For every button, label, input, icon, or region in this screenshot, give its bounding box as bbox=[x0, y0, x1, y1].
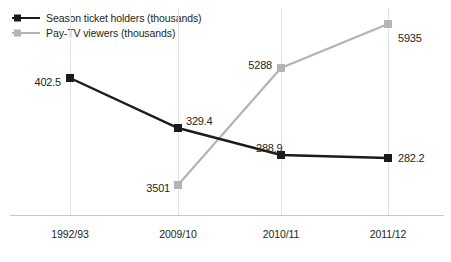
data-point-season-2009-10 bbox=[174, 124, 182, 132]
data-point-pay-tv-2010-11 bbox=[277, 64, 285, 72]
data-label-pay-tv-2011-12: 5935 bbox=[398, 32, 422, 44]
data-label-season-1992-93: 402.5 bbox=[34, 76, 61, 88]
legend-square-icon bbox=[14, 29, 21, 36]
data-point-season-2011-12 bbox=[384, 154, 392, 162]
x-tick-2011-12: 2011/12 bbox=[370, 228, 406, 240]
series-lines bbox=[0, 0, 451, 262]
x-axis-line bbox=[10, 215, 444, 216]
line-chart: Season ticket holders (thousands) Pay-TV… bbox=[0, 0, 451, 262]
data-label-pay-tv-2010-11: 5288 bbox=[248, 59, 272, 71]
data-label-pay-tv-2009-10: 3501 bbox=[146, 182, 170, 194]
line-pay-tv-viewers bbox=[178, 24, 388, 185]
data-label-season-2011-12: 282.2 bbox=[398, 152, 425, 164]
plot-area: 402.5 329.4 288.9 282.2 3501 5288 5935 1… bbox=[0, 0, 451, 262]
line-season-ticket-holders bbox=[70, 78, 388, 158]
data-point-pay-tv-2009-10 bbox=[174, 181, 182, 189]
data-point-pay-tv-2011-12 bbox=[384, 20, 392, 28]
data-label-season-2010-11: 288.9 bbox=[256, 142, 283, 154]
x-tick-1992-93: 1992/93 bbox=[51, 228, 88, 240]
data-point-season-1992-93 bbox=[66, 74, 74, 82]
data-label-season-2009-10: 329.4 bbox=[186, 115, 213, 127]
x-tick-2010-11: 2010/11 bbox=[263, 228, 299, 240]
legend-square-icon bbox=[14, 14, 21, 21]
x-tick-2009-10: 2009/10 bbox=[159, 228, 196, 240]
